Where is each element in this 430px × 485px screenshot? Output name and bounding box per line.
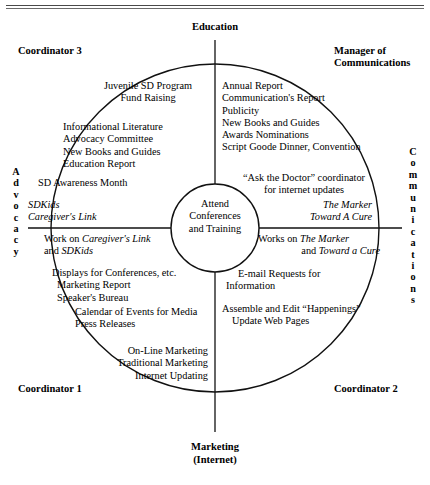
tr-g1-line-2: Communication's Report — [222, 92, 361, 104]
bl-g1-line-1-pre: Work on — [44, 233, 82, 244]
tl-g1-line-2: Fund Raising — [88, 92, 208, 104]
bl-g3-line-1: Calendar of Events for Media — [75, 306, 197, 318]
br-g2-line-2: Information — [226, 280, 320, 292]
bl-g4-line-1: On-Line Marketing — [88, 345, 208, 357]
bl-g3-line-2: Press Releases — [75, 318, 197, 330]
tr-group-3: The Marker Toward A Cure — [240, 199, 372, 224]
br-group-2: E-mail Requests for Information — [238, 268, 320, 293]
axis-label-education: Education — [168, 20, 262, 33]
tr-g2-line-2: for internet updates — [228, 184, 380, 196]
corner-label-coordinator-1: Coordinator 1 — [18, 383, 82, 395]
tl-g2-line-3: New Books and Guides — [63, 146, 208, 158]
tr-g1-line-5: Awards Nominations — [222, 129, 361, 141]
tl-g2-line-1: Informational Literature — [63, 121, 208, 133]
bl-group-4: On-Line Marketing Traditional Marketing … — [88, 345, 208, 382]
axis-label-marketing-line2: (Internet) — [168, 453, 262, 466]
br-g3-line-2: Update Web Pages — [222, 315, 361, 327]
bl-group-3: Calendar of Events for Media Press Relea… — [75, 306, 197, 331]
tl-group-3: SD Awareness Month — [38, 177, 127, 189]
bl-g2-line-3: Speaker's Bureau — [52, 292, 176, 304]
br-group-1: Works on The Marker and Toward a Cure — [244, 233, 380, 258]
tr-g1-line-4: New Books and Guides — [222, 117, 361, 129]
communications-letter-9: a — [404, 238, 422, 249]
corner-label-manager-of-communications: Manager of Communications — [334, 45, 410, 70]
br-g1-line-2-pre: and — [301, 245, 318, 256]
communications-letter-12: o — [404, 272, 422, 283]
corner-label-coordinator-3: Coordinator 3 — [18, 45, 82, 57]
tr-g1-line-3: Publicity — [222, 105, 361, 117]
bl-g4-line-2: Traditional Marketing — [88, 357, 208, 369]
corner-label-coordinator-2: Coordinator 2 — [334, 383, 398, 395]
bl-g1-line-1-italic: Caregiver's Link — [82, 233, 150, 244]
tr-group-1: Annual Report Communication's Report Pub… — [222, 80, 361, 154]
tl-group-1: Juvenile SD Program Fund Raising — [88, 80, 208, 105]
br-g1-line-1: Works on The Marker — [244, 233, 380, 245]
br-g1-line-2-italic: Toward a Cure — [319, 245, 380, 256]
tr-g2-line-1: “Ask the Doctor” coordinator — [228, 172, 380, 184]
br-g2-line-1: E-mail Requests for — [238, 268, 320, 280]
advocacy-letter-4: o — [8, 201, 24, 212]
tr-g1-line-6: Script Goode Dinner, Convention — [222, 141, 361, 153]
tl-g2-line-4: Education Report — [63, 158, 208, 170]
bl-g1-line-1: Work on Caregiver's Link — [44, 233, 151, 245]
br-g3-line-1: Assemble and Edit “Happenings” — [222, 303, 361, 315]
axis-label-marketing: Marketing (Internet) — [168, 440, 262, 466]
bl-group-1: Work on Caregiver's Link and SDKids — [44, 233, 151, 258]
tl-g1-line-1: Juvenile SD Program — [88, 80, 208, 92]
axis-label-communications: C o m m u n i c a t i o n s — [404, 147, 422, 306]
bl-g1-line-2-pre: and — [44, 245, 61, 256]
br-g1-line-2: and Toward a Cure — [244, 245, 380, 257]
tr-g3-line-1: The Marker — [240, 199, 372, 211]
tr-g1-line-1: Annual Report — [222, 80, 361, 92]
br-group-3: Assemble and Edit “Happenings” Update We… — [222, 303, 361, 328]
communications-letter-4: m — [404, 181, 422, 192]
tl-g4-line-2: Caregiver's Link — [28, 211, 96, 223]
br-g1-line-1-pre: Works on — [258, 233, 300, 244]
tr-group-2: “Ask the Doctor” coordinator for interne… — [228, 172, 380, 197]
tl-g4-line-1: SDKids — [28, 199, 96, 211]
advocacy-letter-8: y — [8, 247, 24, 258]
axis-label-marketing-line1: Marketing — [168, 440, 262, 453]
axis-label-advocacy: A d v o c a c y — [8, 167, 24, 258]
bl-g1-line-2: and SDKids — [44, 245, 151, 257]
tl-g2-line-2: Advocacy Committee — [63, 133, 208, 145]
diagram-canvas: Education Marketing (Internet) A d v o c… — [0, 0, 430, 485]
bl-group-2: Displays for Conferences, etc. Marketing… — [52, 267, 176, 304]
bl-g2-line-1: Displays for Conferences, etc. — [52, 267, 176, 279]
manager-label-line1: Manager of — [334, 45, 410, 57]
tr-g3-line-2: Toward A Cure — [240, 211, 372, 223]
tl-group-2: Informational Literature Advocacy Commit… — [63, 121, 208, 170]
tl-group-4: SDKids Caregiver's Link — [28, 199, 96, 224]
br-g1-line-1-italic: The Marker — [300, 233, 349, 244]
tl-g3-line-1: SD Awareness Month — [38, 177, 127, 189]
manager-label-line2: Communications — [334, 57, 410, 69]
bl-g4-line-3: Internet Updating — [88, 370, 208, 382]
bl-g1-line-2-italic: SDKids — [61, 245, 92, 256]
bl-g2-line-2: Marketing Report — [52, 279, 176, 291]
communications-letter-14: s — [404, 295, 422, 306]
